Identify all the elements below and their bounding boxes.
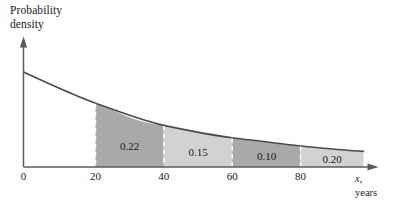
region-value-80-100: 0.20 (322, 153, 341, 165)
x-tick-label-20: 20 (90, 170, 101, 182)
x-tick-label-80: 80 (295, 170, 306, 182)
x-tick-label-40: 40 (158, 170, 169, 182)
probability-density-chart: Probability density x, years 0 20 40 60 … (0, 0, 397, 207)
x-tick-label-60: 60 (227, 170, 238, 182)
x-axis-arrow-icon (368, 163, 379, 170)
region-value-60-80: 0.10 (257, 150, 276, 162)
region-value-20-40: 0.22 (120, 140, 139, 152)
y-axis-label-line2: density (10, 18, 62, 32)
y-axis-arrow-icon (20, 37, 27, 48)
y-axis-label-line1: Probability (10, 4, 62, 18)
chart-canvas (0, 0, 397, 207)
y-axis-label: Probability density (10, 4, 62, 31)
x-axis-label-units: years (355, 186, 377, 200)
region-shade-20-40 (96, 103, 164, 167)
x-axis-label: x, years (355, 172, 377, 200)
x-tick-label-0: 0 (21, 170, 27, 182)
x-axis-label-variable: x, (355, 172, 377, 186)
region-value-40-60: 0.15 (188, 146, 207, 158)
